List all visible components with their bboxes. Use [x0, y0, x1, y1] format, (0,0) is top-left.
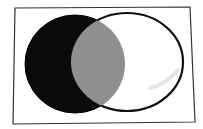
venn-diagram [0, 0, 203, 129]
